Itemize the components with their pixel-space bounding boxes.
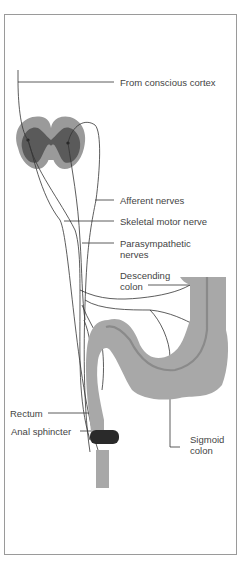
label-parasympathetic-line2: nerves (120, 249, 149, 260)
label-parasympathetic-line1: Parasympathetic (120, 238, 191, 249)
label-rectum: Rectum (10, 408, 43, 419)
label-descending-line2: colon (120, 281, 143, 292)
label-sigmoid-line1: Sigmoid (190, 434, 224, 445)
spinal-cord-cross-section (16, 117, 85, 170)
anal-sphincter (90, 430, 119, 444)
colon (86, 277, 228, 488)
label-afferent-nerves: Afferent nerves (120, 195, 184, 206)
label-descending-line1: Descending (120, 270, 170, 281)
label-sigmoid-line2: colon (190, 445, 213, 456)
label-skeletal-motor-nerve: Skeletal motor nerve (120, 216, 207, 227)
label-anal-sphincter: Anal sphincter (11, 426, 71, 437)
label-conscious-cortex: From conscious cortex (120, 77, 216, 88)
